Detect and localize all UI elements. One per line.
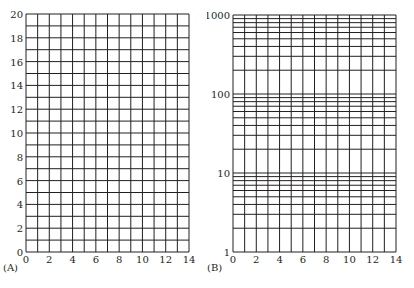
y-tick-label: 8 bbox=[17, 152, 23, 163]
x-tick-label: 0 bbox=[23, 254, 29, 265]
x-tick-label: 0 bbox=[230, 254, 236, 265]
x-tick-label: 12 bbox=[159, 254, 172, 265]
y-tick-label: 10 bbox=[10, 128, 23, 139]
x-tick-label: 4 bbox=[276, 254, 282, 265]
x-tick-label: 8 bbox=[323, 254, 329, 265]
panel-a-linear-grid: 0246810121402468101214161820 bbox=[0, 0, 207, 288]
y-tick-label: 14 bbox=[10, 80, 23, 91]
x-tick-label: 12 bbox=[366, 254, 379, 265]
x-tick-label: 14 bbox=[183, 254, 196, 265]
x-tick-label: 10 bbox=[136, 254, 149, 265]
x-tick-label: 4 bbox=[69, 254, 75, 265]
y-tick-label: 2 bbox=[17, 223, 23, 234]
y-tick-label: 0 bbox=[17, 247, 23, 258]
y-tick-label: 12 bbox=[10, 104, 23, 115]
x-tick-label: 2 bbox=[253, 254, 259, 265]
panel-b-semilog-grid: 024681012141101001000 bbox=[207, 0, 414, 288]
x-tick-label: 14 bbox=[390, 254, 403, 265]
y-tick-label: 4 bbox=[17, 199, 23, 210]
y-tick-label: 1 bbox=[224, 247, 230, 258]
y-tick-label: 1000 bbox=[207, 10, 230, 21]
x-tick-label: 2 bbox=[46, 254, 52, 265]
y-tick-label: 20 bbox=[10, 9, 23, 20]
x-tick-label: 10 bbox=[343, 254, 356, 265]
panel-b-label: (B) bbox=[207, 262, 222, 273]
x-tick-label: 8 bbox=[116, 254, 122, 265]
x-tick-label: 6 bbox=[300, 254, 306, 265]
y-tick-label: 16 bbox=[10, 57, 23, 68]
y-tick-label: 100 bbox=[211, 89, 230, 100]
y-tick-label: 18 bbox=[10, 33, 23, 44]
y-tick-label: 6 bbox=[17, 176, 23, 187]
panel-a-label: (A) bbox=[3, 262, 18, 273]
x-tick-label: 6 bbox=[93, 254, 99, 265]
y-tick-label: 10 bbox=[217, 168, 230, 179]
